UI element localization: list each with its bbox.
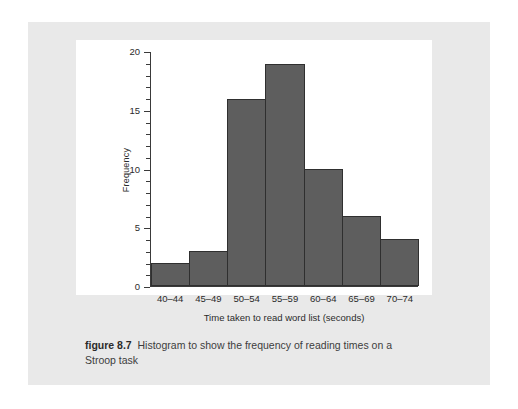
x-axis-tick-label: 50–54 [228,294,266,304]
x-axis-tick-label: 65–69 [342,294,380,304]
figure-label: figure 8.7 [85,339,132,351]
x-axis-tick-label: 40–44 [151,294,189,304]
histogram-bars [151,52,419,286]
plot-card: Frequency 05101520 40–4445–4950–5455–596… [76,40,432,295]
y-axis-minor-tick [146,99,150,100]
y-axis-minor-tick [146,158,150,159]
y-axis-minor-tick [146,64,150,65]
y-axis-major-tick [144,170,150,171]
histogram-bar [265,64,304,286]
y-axis-tick-label: 15 [129,106,140,116]
y-axis-tick-label: 10 [129,165,140,175]
x-axis-tick-label: 45–49 [189,294,227,304]
y-axis-minor-tick [146,193,150,194]
y-axis-tick-label: 5 [135,224,140,234]
histogram-bar [342,216,381,286]
y-axis-tick-label: 20 [129,47,140,57]
histogram-bar [380,239,419,286]
histogram-bar [227,99,266,286]
y-axis-major-tick [144,287,150,288]
y-axis-minor-tick [146,76,150,77]
y-axis-minor-tick [146,181,150,182]
histogram-bar [189,251,228,286]
y-axis-minor-tick [146,275,150,276]
y-axis-minor-tick [146,217,150,218]
x-axis-title: Time taken to read word list (seconds) [150,312,418,323]
y-axis-minor-tick [146,146,150,147]
y-axis-major-tick [144,228,150,229]
y-axis-minor-tick [146,123,150,124]
x-axis-tick-label: 55–59 [266,294,304,304]
y-axis-tick-label: 0 [135,282,140,292]
x-axis-tick-label: 70–74 [381,294,419,304]
chart-axes: Frequency 05101520 40–4445–4950–5455–596… [150,52,418,287]
y-axis-minor-tick [146,134,150,135]
x-axis-tick-label: 60–64 [304,294,342,304]
x-axis-tick-labels: 40–4445–4950–5455–5960–6465–6970–74 [151,294,419,304]
y-axis-minor-tick [146,240,150,241]
x-axis-line [150,286,418,287]
figure-caption: figure 8.7 Histogram to show the frequen… [85,338,415,368]
histogram-bar [304,169,343,286]
histogram-bar [151,263,190,286]
y-axis-minor-tick [146,205,150,206]
y-axis-minor-tick [146,87,150,88]
y-axis-major-tick [144,111,150,112]
y-axis-minor-tick [146,252,150,253]
y-axis-major-tick [144,52,150,53]
figure-panel: Frequency 05101520 40–4445–4950–5455–596… [28,22,490,385]
figure-page: Frequency 05101520 40–4445–4950–5455–596… [0,0,518,409]
y-axis-minor-tick [146,264,150,265]
